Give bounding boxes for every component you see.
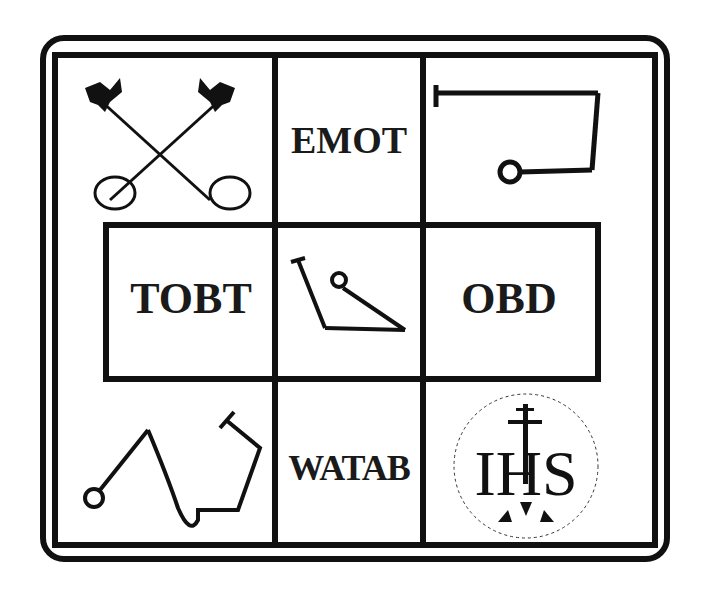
- ihs-text: IHS: [474, 438, 577, 509]
- path-line-with-circle-icon: [430, 75, 630, 225]
- ihs-christogram-icon: IHS: [450, 392, 610, 542]
- crossed-keys-icon: [60, 60, 260, 240]
- path-triangle-with-circle-icon: [285, 252, 425, 372]
- label-tobt: TOBT: [110, 273, 272, 324]
- label-obd: OBD: [426, 273, 592, 324]
- path-wave-with-circle-icon: [78, 398, 278, 538]
- label-emot: EMOT: [278, 118, 420, 162]
- label-watab: WATAB: [276, 447, 422, 489]
